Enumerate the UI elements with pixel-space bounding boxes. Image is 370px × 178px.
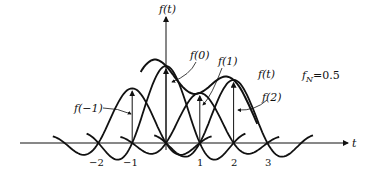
sinc-reconstruction-diagram: f(t) t f(0) f(1) f(t) fN=0.5 f(−1) f(2) … xyxy=(0,0,370,178)
leader-fm1 xyxy=(103,108,131,114)
label-f2: f(2) xyxy=(262,92,282,103)
tick-label-neg1: −1 xyxy=(123,158,138,168)
tick-label-3: 3 xyxy=(265,158,271,168)
tick-label-2: 2 xyxy=(231,158,237,168)
reconstructed-curve xyxy=(141,60,258,124)
reconstructed-signal-curve xyxy=(141,60,258,124)
label-f0: f(0) xyxy=(190,50,210,61)
tick-label-1: 1 xyxy=(197,158,203,168)
label-fm1: f(−1) xyxy=(74,103,103,114)
label-f1: f(1) xyxy=(218,56,238,67)
label-nyquist: fN=0.5 xyxy=(302,70,340,84)
y-axis-label: f(t) xyxy=(159,4,176,15)
leader-f1 xyxy=(203,68,222,105)
label-ft: f(t) xyxy=(258,69,275,80)
x-axis-label: t xyxy=(352,138,356,149)
diagram-canvas xyxy=(0,0,370,178)
tick-label-neg2: −2 xyxy=(89,158,104,168)
